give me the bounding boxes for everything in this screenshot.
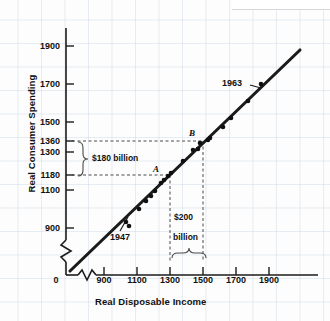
y-tick-label-1500: 1500 bbox=[18, 117, 60, 127]
brace-180-billion bbox=[78, 142, 88, 176]
chart-figure: Real Consumer Spending Real Disposable I… bbox=[0, 0, 330, 321]
point-label-a: A bbox=[153, 164, 159, 174]
point-label-b: B bbox=[189, 128, 195, 138]
data-point bbox=[259, 82, 264, 87]
data-point bbox=[124, 220, 129, 225]
y-tick-label-1360: 1360 bbox=[18, 136, 60, 146]
y-tick-label-1100: 1100 bbox=[18, 185, 60, 195]
year-label-1963: 1963 bbox=[222, 78, 242, 88]
y-tick-label-1180: 1180 bbox=[18, 170, 60, 180]
y-tick-marks bbox=[66, 46, 74, 228]
data-point bbox=[153, 189, 158, 194]
data-point bbox=[137, 207, 142, 212]
annotation-200-billion-line1: $200 bbox=[174, 212, 193, 222]
annotation-180-billion: $180 billion bbox=[92, 153, 138, 163]
data-point bbox=[191, 148, 196, 153]
data-point bbox=[149, 194, 154, 199]
data-point bbox=[208, 136, 213, 141]
data-point bbox=[196, 147, 201, 152]
data-point bbox=[162, 178, 167, 183]
x-axis-title: Real Disposable Income bbox=[95, 296, 207, 307]
x-tick-marks bbox=[104, 267, 269, 275]
data-point bbox=[221, 125, 226, 130]
y-tick-label-1900: 1900 bbox=[18, 41, 60, 51]
y-tick-label-1700: 1700 bbox=[18, 79, 60, 89]
y-axis-break-icon bbox=[61, 240, 71, 262]
brace-200-billion bbox=[172, 248, 206, 258]
y-tick-label-1300: 1300 bbox=[18, 147, 60, 157]
annotation-200-billion-line2: billion bbox=[173, 232, 198, 242]
x-tick-label-1900: 1900 bbox=[249, 275, 289, 285]
origin-label-0: 0 bbox=[46, 275, 66, 285]
year-label-1947: 1947 bbox=[110, 232, 130, 242]
data-point bbox=[144, 199, 149, 204]
data-point bbox=[246, 99, 251, 104]
data-point bbox=[198, 141, 203, 146]
data-point bbox=[127, 224, 132, 229]
y-tick-label-900: 900 bbox=[18, 223, 60, 233]
data-point bbox=[229, 116, 234, 121]
data-point bbox=[169, 171, 174, 176]
data-point bbox=[181, 159, 186, 164]
